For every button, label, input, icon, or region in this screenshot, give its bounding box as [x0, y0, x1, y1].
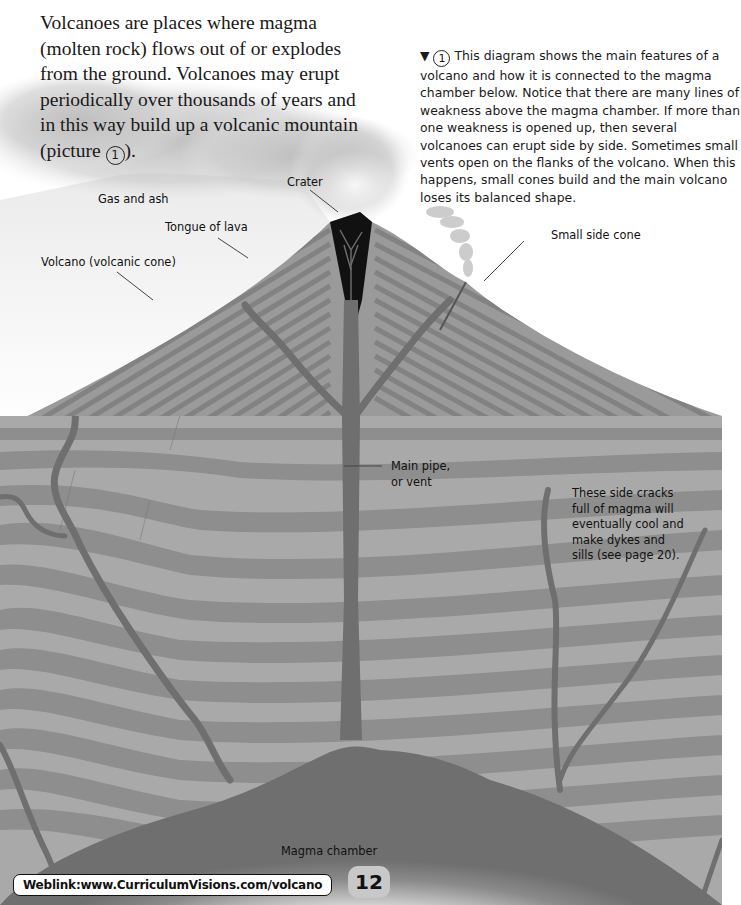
page-number-badge: 12 [348, 866, 390, 898]
figure-number-badge: 1 [433, 50, 450, 67]
label-magma-chamber: Magma chamber [281, 844, 377, 858]
weblink-button[interactable]: Weblink:www.CurriculumVisions.com/volcan… [13, 874, 332, 896]
label-crater: Crater [287, 175, 323, 189]
label-tongue-of-lava: Tongue of lava [165, 220, 248, 234]
label-volcano-cone: Volcano (volcanic cone) [41, 255, 176, 269]
label-gas-and-ash: Gas and ash [98, 192, 169, 206]
label-main-pipe: Main pipe, or vent [391, 459, 481, 490]
label-main-pipe-line1: Main pipe, [391, 459, 450, 473]
label-small-side-cone: Small side cone [551, 228, 641, 242]
label-side-cracks: These side cracks full of magma will eve… [572, 486, 684, 564]
triangle-down-icon: ▼ [420, 48, 430, 63]
label-main-pipe-line2: or vent [391, 475, 432, 489]
intro-paragraph: Volcanoes are places where magma (molten… [40, 10, 370, 165]
intro-text-end: ). [125, 140, 136, 161]
caption-text: This diagram shows the main features of … [420, 48, 740, 205]
intro-text: Volcanoes are places where magma (molten… [40, 12, 358, 161]
diagram-caption: ▼ 1 This diagram shows the main features… [420, 47, 741, 206]
picture-ref-badge: 1 [106, 146, 125, 165]
